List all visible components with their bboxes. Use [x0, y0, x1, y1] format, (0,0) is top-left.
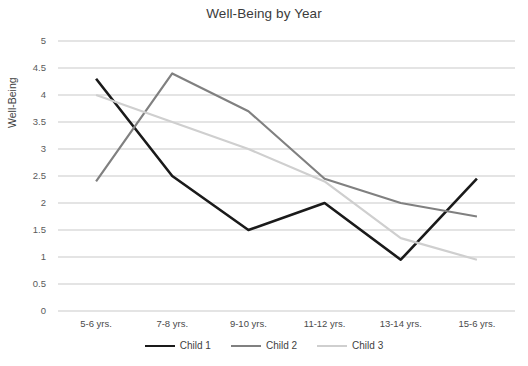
legend-item-2[interactable]: Child 2: [231, 340, 297, 351]
series-line-1: [96, 79, 477, 260]
chart-legend: Child 1Child 2Child 3: [0, 340, 528, 351]
legend-item-1[interactable]: Child 1: [145, 340, 211, 351]
x-tick-label: 11-12 yrs.: [304, 318, 346, 329]
legend-line-icon: [145, 345, 175, 347]
legend-label: Child 3: [352, 340, 383, 351]
x-tick-label: 7-8 yrs.: [156, 318, 188, 329]
legend-line-icon: [231, 345, 261, 347]
plot-area: [0, 0, 528, 366]
series-line-3: [96, 95, 477, 260]
x-tick-label: 13-14 yrs.: [380, 318, 422, 329]
legend-label: Child 2: [266, 340, 297, 351]
chart-container: Well-Being by Year Well-Being 54.543.532…: [0, 0, 528, 366]
legend-item-3[interactable]: Child 3: [317, 340, 383, 351]
x-tick-label: 5-6 yrs.: [80, 318, 112, 329]
legend-line-icon: [317, 345, 347, 347]
series-lines: [96, 73, 477, 259]
legend-label: Child 1: [180, 340, 211, 351]
gridlines: [58, 41, 515, 311]
x-tick-label: 15-6 yrs.: [458, 318, 495, 329]
x-tick-label: 9-10 yrs.: [230, 318, 267, 329]
